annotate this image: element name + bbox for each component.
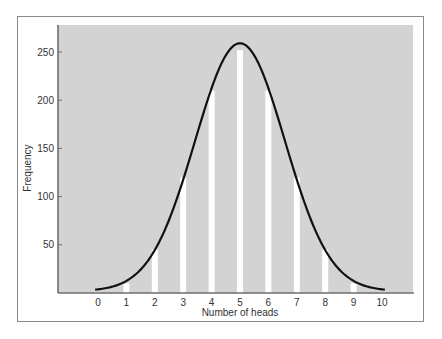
bar-4 [209, 91, 215, 293]
chart: 50100150200250 012345678910 Number of he… [0, 0, 442, 339]
y-tick-label: 250 [37, 47, 54, 58]
bar-5 [237, 50, 243, 293]
y-tick-label: 50 [43, 239, 55, 250]
x-tick-label: 0 [95, 297, 101, 308]
y-tick-label: 200 [37, 95, 54, 106]
x-tick-label: 1 [124, 297, 130, 308]
plot-area [58, 25, 413, 293]
bar-7 [294, 177, 300, 293]
x-tick-label: 2 [152, 297, 158, 308]
x-tick-label: 3 [180, 297, 186, 308]
x-tick-label: 7 [294, 297, 300, 308]
y-tick-label: 100 [37, 191, 54, 202]
x-tick-label: 10 [376, 297, 388, 308]
bar-1 [123, 283, 129, 293]
bar-8 [322, 250, 328, 293]
bar-6 [265, 91, 271, 293]
x-tick-label: 9 [351, 297, 357, 308]
x-axis-title: Number of heads [202, 307, 279, 318]
bar-2 [152, 250, 158, 293]
y-axis-title: Frequency [22, 144, 33, 191]
y-tick-label: 150 [37, 143, 54, 154]
x-tick-label: 8 [322, 297, 328, 308]
bar-3 [180, 177, 186, 293]
bar-9 [351, 283, 357, 293]
